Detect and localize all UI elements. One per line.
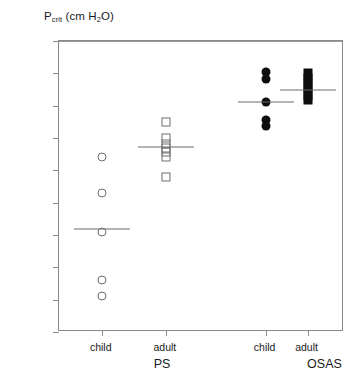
y-axis-title: Pcrit (cm H2O) bbox=[44, 10, 114, 22]
data-point-open-square bbox=[161, 117, 170, 126]
pcrit-scatter-figure: Pcrit (cm H2O) 1050-5-10-15-20-25-30-35 … bbox=[0, 0, 351, 389]
y-axis-title-units: (cm H bbox=[62, 10, 96, 22]
x-tick-label-adult-osas: adult bbox=[295, 341, 318, 353]
y-tick bbox=[53, 138, 59, 139]
x-tick bbox=[166, 330, 167, 336]
data-point-open-square bbox=[161, 172, 170, 181]
y-tick bbox=[53, 235, 59, 236]
y-tick bbox=[53, 106, 59, 107]
data-point-open-circle bbox=[97, 153, 106, 162]
mean-bar bbox=[138, 147, 194, 148]
mean-bar bbox=[280, 89, 336, 90]
x-group-label-osas: OSAS bbox=[307, 357, 342, 371]
y-axis-title-subscript: crit bbox=[52, 15, 62, 24]
plot-area bbox=[58, 40, 343, 331]
x-tick bbox=[266, 330, 267, 336]
y-axis-title-units-end: O) bbox=[101, 10, 114, 22]
y-tick bbox=[53, 203, 59, 204]
y-axis-title-main: P bbox=[44, 10, 52, 22]
data-point-filled-circle bbox=[261, 74, 270, 83]
data-point-filled-square bbox=[303, 96, 312, 105]
data-point-open-circle bbox=[97, 276, 106, 285]
data-point-filled-circle bbox=[261, 122, 270, 131]
y-tick bbox=[53, 267, 59, 268]
x-tick bbox=[102, 330, 103, 336]
mean-bar bbox=[74, 228, 130, 229]
y-tick bbox=[53, 170, 59, 171]
y-axis-title-units-subscript: 2 bbox=[97, 15, 101, 24]
y-tick bbox=[53, 332, 59, 333]
x-tick-label-child-osas: child bbox=[254, 341, 276, 353]
zero-reference-line bbox=[59, 41, 342, 42]
y-tick bbox=[53, 73, 59, 74]
x-tick-label-adult-ps: adult bbox=[153, 341, 176, 353]
x-tick bbox=[308, 330, 309, 336]
y-tick bbox=[53, 41, 59, 42]
y-tick bbox=[53, 300, 59, 301]
data-point-open-square bbox=[161, 153, 170, 162]
x-group-label-ps: PS bbox=[154, 357, 171, 371]
x-tick-label-child-ps: child bbox=[90, 341, 112, 353]
data-point-open-circle bbox=[97, 292, 106, 301]
mean-bar bbox=[238, 102, 294, 103]
data-point-open-circle bbox=[97, 188, 106, 197]
